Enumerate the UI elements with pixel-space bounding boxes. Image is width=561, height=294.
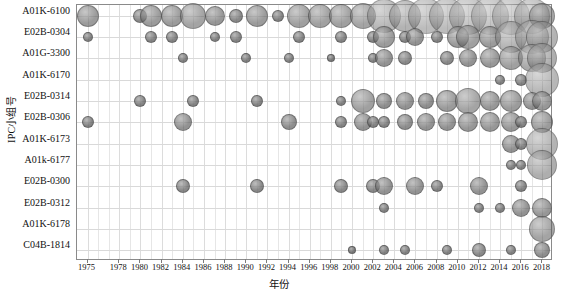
vertical-gridline [437, 5, 438, 259]
bubble-marker [373, 26, 395, 48]
bubble-marker [406, 28, 424, 46]
vertical-gridline [193, 5, 194, 259]
vertical-gridline [257, 5, 258, 259]
y-axis-tick-label: E02B-0300 [0, 176, 70, 186]
y-axis-tick-label: E02B-0312 [0, 198, 70, 208]
vertical-gridline [119, 5, 120, 259]
bubble-marker [145, 31, 157, 43]
bubble-marker [178, 53, 188, 63]
bubble-marker [472, 243, 486, 257]
vertical-gridline [88, 5, 89, 259]
bubble-marker [480, 91, 500, 111]
bubble-marker [431, 31, 443, 43]
y-axis-tick-label: A01K-6178 [0, 219, 70, 229]
x-axis-tick-label: 2018 [521, 263, 561, 272]
bubble-marker [83, 32, 93, 42]
vertical-gridline [331, 5, 332, 259]
bubble-marker [348, 246, 356, 254]
bubble-marker [284, 53, 294, 63]
vertical-gridline [98, 5, 99, 259]
bubble-marker [379, 203, 389, 213]
bubble-marker [351, 89, 375, 113]
vertical-gridline [289, 5, 290, 259]
y-axis-tick-label: A01K-6170 [0, 70, 70, 80]
bubble-marker [205, 6, 225, 26]
bubble-marker [512, 199, 530, 217]
vertical-gridline [341, 5, 342, 259]
bubble-marker [230, 31, 242, 43]
horizontal-gridline [77, 80, 551, 81]
x-axis-title: 年份 [0, 276, 558, 291]
vertical-gridline [310, 5, 311, 259]
bubble-marker [210, 32, 220, 42]
vertical-gridline [267, 5, 268, 259]
bubble-marker [532, 91, 552, 111]
bubble-marker [495, 75, 505, 85]
bubble-marker [272, 10, 284, 22]
bubble-marker [82, 116, 94, 128]
y-axis-tick-label: E02B-0314 [0, 91, 70, 101]
bubble-marker [532, 198, 552, 218]
bubble-marker [474, 203, 484, 213]
bubble-marker [529, 216, 555, 242]
vertical-gridline [320, 5, 321, 259]
vertical-gridline [109, 5, 110, 259]
vertical-gridline [236, 5, 237, 259]
horizontal-gridline [77, 229, 551, 230]
bubble-marker [174, 113, 192, 131]
bubble-marker [396, 92, 414, 110]
vertical-gridline [394, 5, 395, 259]
vertical-gridline [246, 5, 247, 259]
horizontal-gridline [77, 144, 551, 145]
vertical-gridline [352, 5, 353, 259]
bubble-marker [379, 245, 389, 255]
horizontal-gridline [77, 165, 551, 166]
y-axis-tick-label: A01k-6177 [0, 155, 70, 165]
bubble-marker [176, 179, 190, 193]
bubble-marker [506, 245, 516, 255]
y-axis-tick-label: E02B-0304 [0, 27, 70, 37]
bubble-marker [251, 95, 263, 107]
bubble-marker [378, 116, 390, 128]
y-axis-tick-labels: A01K-6100E02B-0304A01G-3300A01K-6170E02B… [0, 0, 76, 256]
vertical-gridline [140, 5, 141, 259]
bubble-marker [327, 54, 335, 62]
bubble-marker [459, 49, 477, 67]
bubble-marker [442, 245, 452, 255]
bubble-marker [431, 180, 443, 192]
bubble-marker [495, 203, 505, 213]
bubble-marker [334, 179, 348, 193]
vertical-gridline [299, 5, 300, 259]
bubble-marker [438, 113, 456, 131]
bubble-marker [293, 31, 305, 43]
bubble-marker [180, 3, 206, 29]
vertical-gridline [172, 5, 173, 259]
bubble-marker [516, 160, 526, 170]
bubble-marker [470, 177, 488, 195]
bubble-marker [515, 116, 527, 128]
bubble-marker [241, 53, 251, 63]
vertical-gridline [278, 5, 279, 259]
bubble-marker [417, 113, 435, 131]
bubble-marker [506, 160, 516, 170]
y-axis-tick-label: C04B-1814 [0, 240, 70, 250]
bubble-marker [250, 179, 264, 193]
bubble-marker [335, 31, 347, 43]
bubble-marker [336, 96, 346, 106]
bubble-marker [418, 93, 434, 109]
vertical-gridline [151, 5, 152, 259]
bubble-marker [375, 177, 393, 195]
bubble-marker [480, 112, 500, 132]
bubble-marker [335, 116, 347, 128]
bubble-marker [246, 5, 268, 27]
vertical-gridline [183, 5, 184, 259]
bubble-marker [480, 48, 500, 68]
y-axis-tick-label: A01G-3300 [0, 48, 70, 58]
bubble-marker [406, 177, 424, 195]
bubble-marker [134, 95, 146, 107]
bubble-marker [397, 114, 413, 130]
vertical-gridline [363, 5, 364, 259]
bubble-marker [376, 93, 392, 109]
bubble-marker [281, 114, 297, 130]
